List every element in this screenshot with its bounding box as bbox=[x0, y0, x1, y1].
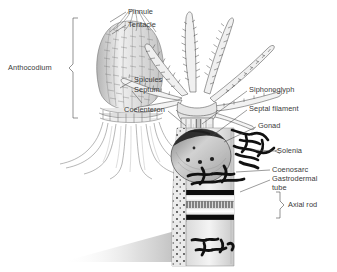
label-septal-filament: Septal filament bbox=[249, 105, 299, 114]
label-spicules: Spicules bbox=[134, 76, 162, 85]
label-anthocodium: Anthocodium bbox=[8, 64, 52, 73]
label-tentacle: Tentacle bbox=[128, 21, 156, 30]
label-gonad: Gonad bbox=[258, 122, 280, 131]
label-solenia: Solenia bbox=[277, 147, 302, 156]
diagram-artwork bbox=[0, 0, 337, 272]
label-gastrodermal-tube: Gastrodermal tube bbox=[272, 175, 317, 192]
label-pinnule: Pinnule bbox=[128, 8, 153, 17]
label-septum: Septum bbox=[134, 86, 160, 95]
anthocodium-bracket bbox=[69, 18, 78, 118]
axial-rod-bracket bbox=[276, 192, 284, 218]
label-axial-rod: Axial rod bbox=[288, 201, 317, 210]
anatomical-figure: Pinnule Tentacle Anthocodium Spicules Se… bbox=[0, 0, 337, 272]
label-siphonoglyph: Siphonoglyph bbox=[249, 86, 294, 95]
label-coelenteron: Coelenteron bbox=[124, 106, 165, 115]
